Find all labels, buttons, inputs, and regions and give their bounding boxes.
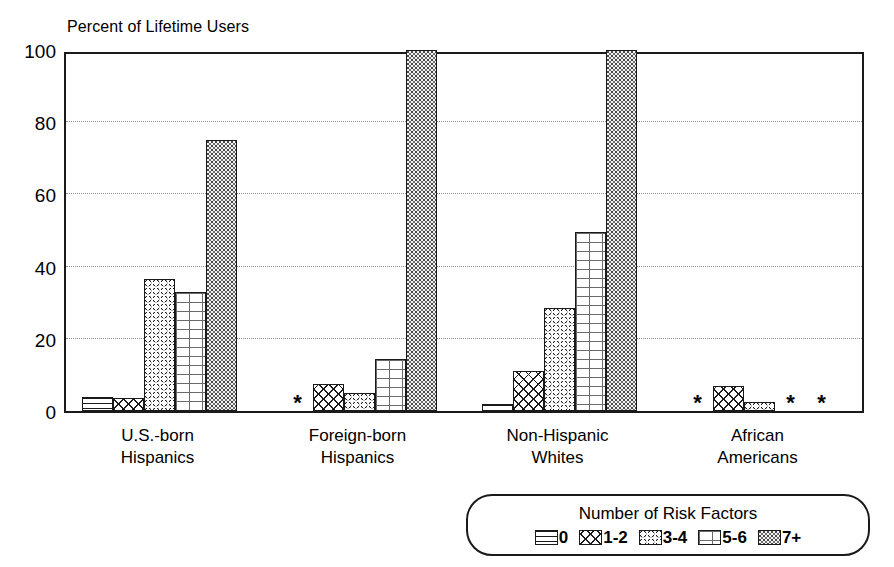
legend-item[interactable]: 1-2 <box>579 529 628 546</box>
bar <box>406 50 437 411</box>
legend: Number of Risk Factors 01-23-45-67+ <box>466 494 870 556</box>
category-label-line: Whites <box>448 447 668 469</box>
y-axis-tick-label: 80 <box>4 114 56 133</box>
bar-chart: Percent of Lifetime Users 020406080100 *… <box>0 0 894 567</box>
y-axis-tick-label: 0 <box>4 403 56 422</box>
bar <box>482 404 513 411</box>
y-axis-tick-label: 60 <box>4 186 56 205</box>
legend-items: 01-23-45-67+ <box>468 529 868 546</box>
legend-swatch-circles <box>639 530 662 545</box>
suppressed-value-marker: * <box>775 395 806 411</box>
bar-group <box>66 54 266 411</box>
legend-swatch-diamond-crosshatch <box>579 530 602 545</box>
legend-item-label: 5-6 <box>722 529 747 546</box>
legend-item[interactable]: 3-4 <box>639 529 688 546</box>
y-axis-tick-label: 40 <box>4 259 56 278</box>
legend-item-label: 3-4 <box>663 529 688 546</box>
bar <box>144 279 175 411</box>
suppressed-value-marker: * <box>282 395 313 411</box>
bar <box>544 308 575 411</box>
bar-group: * <box>266 54 466 411</box>
bar <box>82 397 113 411</box>
bar <box>606 50 637 411</box>
category-label-line: Hispanics <box>48 447 268 469</box>
legend-swatch-stipple <box>758 530 781 545</box>
legend-title: Number of Risk Factors <box>468 505 868 522</box>
category-label-line: Americans <box>648 447 868 469</box>
bar <box>575 232 606 411</box>
bar-group <box>466 54 666 411</box>
legend-item-label: 7+ <box>782 529 801 546</box>
bar <box>206 140 237 411</box>
category-label-line: Hispanics <box>248 447 468 469</box>
legend-item[interactable]: 0 <box>535 529 568 546</box>
legend-item-label: 1-2 <box>603 529 628 546</box>
category-label-line: Foreign-born <box>248 425 468 447</box>
x-axis-category-label: Non-HispanicWhites <box>448 425 668 469</box>
suppressed-value-marker: * <box>682 395 713 411</box>
plot-area: **** <box>64 52 864 413</box>
legend-item[interactable]: 7+ <box>758 529 801 546</box>
y-axis-tick-label: 20 <box>4 331 56 350</box>
legend-item[interactable]: 5-6 <box>698 529 747 546</box>
legend-swatch-brick <box>698 530 721 545</box>
bar <box>513 371 544 411</box>
bar <box>344 393 375 411</box>
bar <box>744 402 775 411</box>
bar-group: *** <box>666 54 866 411</box>
category-label-line: Non-Hispanic <box>448 425 668 447</box>
legend-item-label: 0 <box>559 529 568 546</box>
legend-swatch-horizontal-lines <box>535 530 558 545</box>
x-axis-category-label: Foreign-bornHispanics <box>248 425 468 469</box>
suppressed-value-marker: * <box>806 395 837 411</box>
x-axis-category-label: U.S.-bornHispanics <box>48 425 268 469</box>
category-label-line: U.S.-born <box>48 425 268 447</box>
plot-inner: **** <box>66 54 862 411</box>
category-label-line: African <box>648 425 868 447</box>
bar <box>175 292 206 411</box>
bar <box>313 384 344 411</box>
bar <box>713 386 744 411</box>
bar <box>375 359 406 411</box>
chart-title: Percent of Lifetime Users <box>67 18 249 36</box>
bar <box>113 398 144 411</box>
x-axis-category-label: AfricanAmericans <box>648 425 868 469</box>
y-axis-tick-label: 100 <box>4 42 56 61</box>
